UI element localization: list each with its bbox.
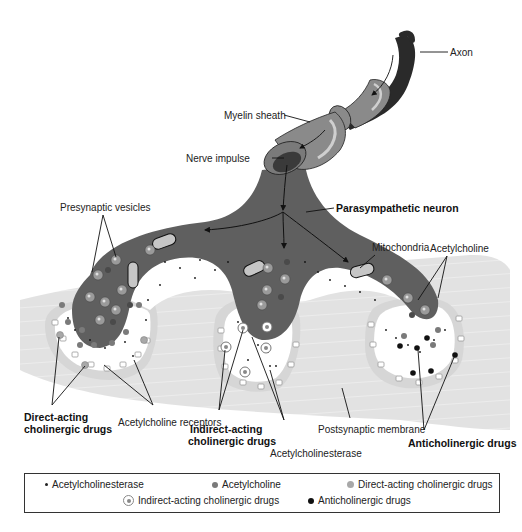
label-anticholinergic-drugs: Anticholinergic drugs [408,437,517,449]
label-indirect-acting-1: Indirect-acting [190,423,262,435]
label-direct-acting-2: cholinergic drugs [24,423,112,435]
legend: Acetylcholinesterase Acetylcholine Direc… [24,473,500,513]
label-direct-acting-1: Direct-acting [24,411,88,423]
light-gray-dot-icon [347,481,354,488]
label-myelin-sheath: Myelin sheath [224,110,286,122]
label-parasympathetic-neuron: Parasympathetic neuron [336,202,459,214]
legend-label: Anticholinergic drugs [318,495,411,506]
legend-label: Acetylcholinesterase [52,479,144,490]
black-dot-icon [308,498,314,504]
legend-item-acetylcholine: Acetylcholine [212,479,281,490]
label-nerve-impulse: Nerve impulse [186,153,250,165]
dark-gray-dot-icon [212,482,218,488]
legend-item-direct-acting: Direct-acting cholinergic drugs [347,479,493,490]
legend-item-indirect-acting: Indirect-acting cholinergic drugs [123,495,279,506]
legend-label: Direct-acting cholinergic drugs [358,479,493,490]
legend-label: Indirect-acting cholinergic drugs [138,495,279,506]
label-acetylcholine: Acetylcholine [430,243,489,255]
label-presynaptic-vesicles: Presynaptic vesicles [60,202,151,214]
label-mitochondria: Mitochondria [372,242,429,254]
legend-label: Acetylcholine [222,479,281,490]
legend-item-anticholinergic: Anticholinergic drugs [308,495,411,506]
label-postsynaptic-membrane: Postsynaptic membrane [318,424,425,436]
legend-item-acetylcholinesterase: Acetylcholinesterase [45,479,144,490]
axon [259,34,415,181]
label-indirect-acting-2: cholinergic drugs [188,435,276,447]
label-acetylcholinesterase: Acetylcholinesterase [270,448,362,460]
small-dot-icon [45,483,48,486]
neuromuscular-junction-diagram [0,0,522,532]
label-axon: Axon [450,47,473,59]
ringed-dot-icon [123,495,134,506]
